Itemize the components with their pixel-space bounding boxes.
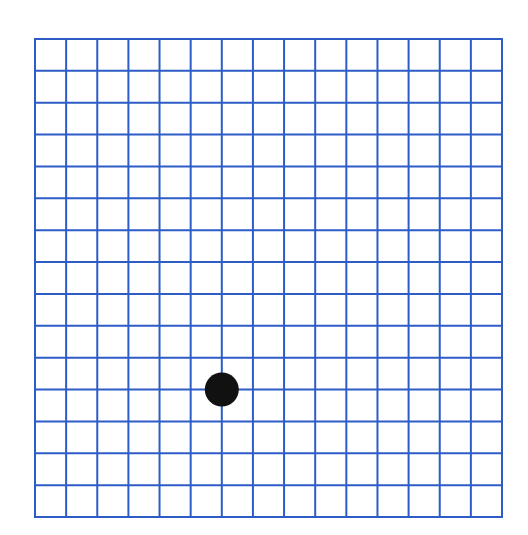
grid-diagram (0, 0, 528, 535)
background (0, 0, 528, 535)
fixation-dot (205, 373, 239, 407)
